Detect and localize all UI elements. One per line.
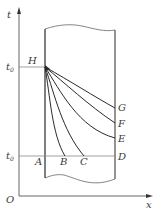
lower-t0-label: t0 xyxy=(6,150,14,162)
curve-H-G xyxy=(45,67,115,108)
point-G-label: G xyxy=(118,102,126,113)
point-B-label: B xyxy=(59,156,67,167)
diagram: t x O t0 t0 H G F E D A B C xyxy=(0,0,159,213)
upper-t0-label: t0 xyxy=(6,61,14,73)
bottom-wavy-edge xyxy=(45,175,115,183)
t-axis-label: t xyxy=(7,9,12,20)
top-wavy-edge xyxy=(45,25,115,31)
curve-H-C xyxy=(45,67,84,156)
point-A-label: A xyxy=(34,156,42,167)
guide-lines xyxy=(19,67,115,156)
point-H-label: H xyxy=(27,55,37,66)
axes xyxy=(17,7,153,198)
origin-label: O xyxy=(6,194,14,205)
upper-t0-sub: 0 xyxy=(10,66,14,73)
curve-H-B xyxy=(45,67,65,156)
x-axis-label: x xyxy=(146,199,152,210)
lower-t0-sub: 0 xyxy=(10,155,14,162)
point-E-label: E xyxy=(117,133,126,144)
x-axis-arrow-icon xyxy=(146,194,153,198)
point-F-label: F xyxy=(117,118,126,129)
profile-curves xyxy=(45,67,115,156)
t-axis-arrow-icon xyxy=(17,7,21,14)
point-C-label: C xyxy=(80,156,88,167)
curve-H-F xyxy=(45,67,115,123)
point-D-label: D xyxy=(117,151,126,162)
